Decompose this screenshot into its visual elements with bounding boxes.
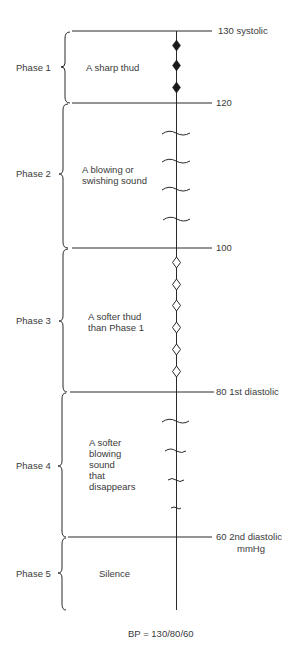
desc-line: than Phase 1 bbox=[88, 322, 144, 333]
filled-diamond-icon bbox=[173, 40, 181, 51]
pressure-label-60: 60 2nd diastolic bbox=[216, 531, 282, 542]
pressure-label-120: 120 bbox=[216, 97, 232, 108]
open-diamond-icon bbox=[173, 366, 181, 377]
phase-4-description: A softer blowing sound that disappears bbox=[89, 437, 135, 492]
pressure-label-130: 130 systolic bbox=[218, 25, 268, 36]
brace-phase-1 bbox=[61, 32, 70, 103]
phase-1-label: Phase 1 bbox=[16, 62, 51, 73]
korotkoff-phase-diagram: 130 systolic 120 100 80 1st diastolic 60… bbox=[0, 0, 303, 645]
desc-line: sound bbox=[89, 459, 135, 470]
wave-icon bbox=[162, 419, 189, 423]
brace-phase-4 bbox=[58, 393, 66, 537]
phase-1-description: A sharp thud bbox=[86, 62, 139, 73]
desc-line: A softer bbox=[89, 437, 135, 448]
pressure-label-80: 80 1st diastolic bbox=[216, 386, 279, 397]
open-diamond-icon bbox=[173, 300, 181, 311]
brace-phase-2 bbox=[59, 104, 68, 248]
wave-icon bbox=[165, 449, 186, 453]
phase-3-description: A softer thud than Phase 1 bbox=[88, 311, 144, 333]
phase-5-description: Silence bbox=[99, 568, 130, 579]
desc-line: swishing sound bbox=[82, 175, 147, 186]
phase-3-label: Phase 3 bbox=[16, 315, 51, 326]
desc-line: A sharp thud bbox=[86, 62, 139, 73]
filled-diamond-icon bbox=[173, 82, 181, 93]
unit-label: mmHg bbox=[237, 543, 265, 554]
desc-line: blowing bbox=[89, 448, 135, 459]
brace-phase-3 bbox=[59, 249, 68, 392]
filled-diamond-icon bbox=[173, 60, 181, 71]
desc-line: disappears bbox=[89, 481, 135, 492]
phase-5-label: Phase 5 bbox=[16, 568, 51, 579]
open-diamond-icon bbox=[173, 322, 181, 333]
desc-line: Silence bbox=[99, 568, 130, 579]
open-diamond-icon bbox=[173, 344, 181, 355]
desc-line: A softer thud bbox=[88, 311, 144, 322]
open-diamond-icon bbox=[173, 257, 181, 268]
phase-4-label: Phase 4 bbox=[16, 460, 51, 471]
phase-2-description: A blowing or swishing sound bbox=[82, 164, 147, 186]
pressure-label-100: 100 bbox=[216, 242, 232, 253]
brace-phase-5 bbox=[58, 538, 66, 610]
bp-summary: BP = 130/80/60 bbox=[128, 628, 194, 639]
desc-line: A blowing or bbox=[82, 164, 147, 175]
desc-line: that bbox=[89, 470, 135, 481]
open-diamond-icon bbox=[173, 279, 181, 290]
phase-2-label: Phase 2 bbox=[16, 168, 51, 179]
